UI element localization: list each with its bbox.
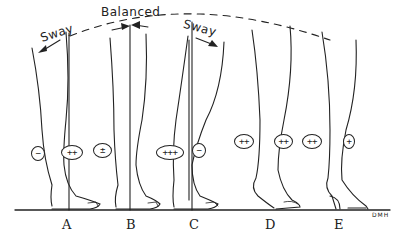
badge-c-2: − — [192, 143, 206, 158]
badge-b-1: ± — [93, 143, 112, 158]
figure-b-letter: B — [126, 217, 136, 232]
figure-c-leg — [173, 22, 224, 210]
figure-b-leg — [110, 25, 160, 210]
badge-a-1: − — [31, 146, 45, 161]
figure-a-letter: A — [62, 217, 71, 232]
balanced-label: Balanced — [101, 5, 160, 19]
badge-d-1: ++ — [234, 134, 254, 149]
figure-e-leg — [322, 32, 368, 209]
figure-e-letter: E — [334, 217, 344, 232]
artist-signature: DMH — [372, 211, 389, 218]
figure-c-letter: C — [189, 217, 199, 232]
badge-d-2: ++ — [274, 134, 293, 149]
figure-a-leg — [32, 32, 100, 210]
badge-c-1: +++ — [156, 145, 184, 160]
figure-d-leg — [252, 26, 300, 209]
badge-e-1: ++ — [302, 134, 322, 149]
figure-d-letter: D — [265, 217, 275, 232]
badge-a-2: ++ — [61, 145, 83, 160]
badge-e-2: + — [343, 134, 355, 149]
